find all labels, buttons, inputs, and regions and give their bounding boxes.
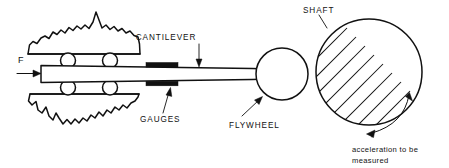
tapered-cantilever-beam (41, 66, 292, 83)
broken-away-lower-support-block (29, 94, 140, 124)
strain-gauge-upper (146, 63, 178, 68)
acceleration-caption-line2: measured (352, 156, 389, 165)
gauges-leader-line (163, 88, 172, 114)
cantilever-label: CANTILEVER (136, 33, 196, 42)
force-arrow (17, 70, 41, 77)
acceleration-caption-line1: acceleration to be (352, 145, 418, 154)
flywheel-leader-line (242, 97, 263, 117)
accelerometer-schematic: F CANTILEVER GAUGES FLYWHEEL SHAFT accel… (0, 0, 449, 168)
flywheel-label: FLYWHEEL (229, 121, 280, 130)
cantilever-leader-line (196, 44, 202, 67)
gauges-label: GAUGES (140, 115, 180, 124)
force-label: F (18, 55, 24, 65)
shaft-label: SHAFT (303, 6, 334, 15)
diagram-canvas: F CANTILEVER GAUGES FLYWHEEL SHAFT accel… (0, 0, 449, 168)
flywheel-circle (256, 48, 308, 100)
broken-away-upper-support-block (28, 12, 140, 54)
strain-gauge-lower (146, 81, 178, 86)
shaft-leader-line (319, 15, 327, 28)
